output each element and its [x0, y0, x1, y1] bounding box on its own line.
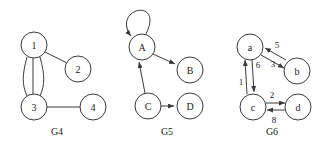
graph-g4: 1 2 3 4 G4 [21, 32, 106, 137]
node-3[interactable]: 3 [21, 94, 47, 120]
edge-weight-b-a: 5 [275, 40, 280, 50]
node-c-label: C [145, 101, 152, 112]
graph-figure: 1 2 3 4 G4 [0, 0, 329, 148]
node-a-label: A [138, 42, 146, 53]
graph-caption-g5: G5 [161, 126, 173, 137]
edge-a-a-self-loop [126, 10, 150, 36]
edge-1-2 [45, 52, 67, 63]
node-c-lower[interactable]: c [240, 94, 266, 120]
graph-canvas: 1 2 3 4 G4 [0, 0, 329, 148]
edge-weight-a-b: 3 [271, 59, 276, 69]
node-3-label: 3 [32, 102, 37, 113]
edge-weight-d-c: 8 [272, 115, 277, 125]
node-1[interactable]: 1 [21, 32, 47, 58]
node-b-lower[interactable]: b [284, 58, 310, 84]
node-2[interactable]: 2 [65, 56, 91, 82]
node-b[interactable]: B [177, 57, 203, 83]
node-b-label: B [187, 65, 194, 76]
graph-caption-g6: G6 [266, 126, 278, 137]
node-4-label: 4 [91, 102, 96, 113]
node-b-lower-label: b [295, 66, 300, 77]
node-1-label: 1 [32, 40, 37, 51]
edge-c-a-weighted [245, 60, 247, 94]
edge-c-a [139, 62, 145, 93]
node-a-lower-label: a [248, 42, 253, 53]
graph-g5: A B C D G5 [126, 10, 203, 136]
node-d-lower-label: d [296, 102, 301, 113]
edge-1-3-parallel-2 [40, 57, 44, 96]
edge-weight-c-d: 2 [270, 90, 275, 100]
node-c[interactable]: C [135, 93, 161, 119]
node-2-label: 2 [76, 64, 81, 75]
edge-weight-c-a: 1 [239, 77, 244, 87]
edge-a-b [153, 54, 175, 64]
node-a-lower[interactable]: a [237, 34, 263, 60]
edge-weight-a-c: 6 [256, 60, 261, 70]
node-d-label: D [186, 101, 193, 112]
node-d-lower[interactable]: d [285, 94, 311, 120]
node-a[interactable]: A [129, 34, 155, 60]
node-4[interactable]: 4 [80, 94, 106, 120]
edge-a-c [252, 60, 254, 92]
edge-1-3-parallel-0 [23, 57, 27, 96]
graph-g6: a b c d 5 3 6 1 2 8 G6 [237, 34, 311, 137]
node-d[interactable]: D [177, 93, 203, 119]
graph-caption-g4: G4 [51, 126, 63, 137]
node-c-lower-label: c [251, 102, 256, 113]
